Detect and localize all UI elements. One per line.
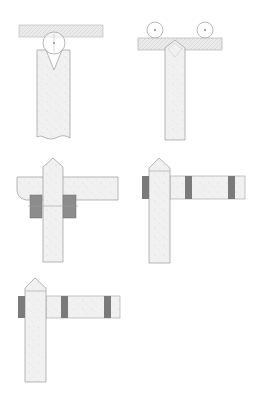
figure-2-rollers-on-beam [138, 22, 222, 140]
figure-5-banded-arm [18, 278, 120, 382]
roller-left-center [154, 29, 156, 31]
band-3 [104, 296, 111, 318]
clamp-block-right [63, 195, 76, 218]
band-2 [61, 296, 68, 318]
pointed-post [165, 40, 185, 140]
pointed-post [149, 158, 170, 263]
roller-right-center [204, 29, 206, 31]
figure-1-roller-in-notch [19, 25, 103, 139]
pointed-post [43, 158, 63, 262]
diagram-canvas [0, 0, 261, 398]
roller-center [53, 42, 55, 44]
clamp-block-left [30, 195, 42, 218]
figure-3-clamped-post [17, 158, 118, 262]
band-1 [18, 296, 25, 318]
figure-4-banded-arm [142, 158, 245, 263]
band-3 [228, 176, 235, 199]
notched-post [37, 50, 70, 139]
pointed-post [25, 278, 46, 382]
band-1 [142, 176, 149, 199]
band-2 [185, 176, 192, 199]
